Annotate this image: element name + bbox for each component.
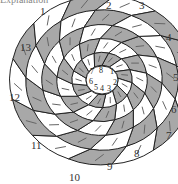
center-label-8: 8 (99, 67, 103, 75)
center-label-2: 2 (113, 79, 117, 87)
spiral-label-3: 3 (139, 0, 145, 11)
spiral-label-8: 8 (134, 148, 140, 159)
spiral-label-12: 12 (9, 92, 20, 103)
center-label-4: 4 (100, 85, 104, 93)
spiral-label-6: 6 (171, 104, 177, 115)
center-label-7: 7 (90, 68, 94, 76)
center-label-3: 3 (107, 85, 111, 93)
center-label-6: 6 (89, 78, 93, 86)
spiral-label-2: 2 (106, 0, 112, 11)
spiral-label-4: 4 (166, 32, 172, 43)
center-label-5: 5 (94, 84, 98, 92)
phyllotaxis-diagram (0, 0, 178, 184)
spiral-label-1: 1 (40, 6, 46, 17)
spiral-label-11: 11 (31, 140, 42, 151)
spiral-label-7: 7 (166, 130, 172, 141)
spiral-label-5: 5 (173, 72, 178, 83)
direction-arrow (121, 75, 128, 76)
spiral-label-13: 13 (20, 42, 31, 53)
spiral-label-10: 10 (69, 172, 80, 183)
center-label-1: 1 (110, 68, 114, 76)
spiral-label-9: 9 (107, 161, 113, 172)
